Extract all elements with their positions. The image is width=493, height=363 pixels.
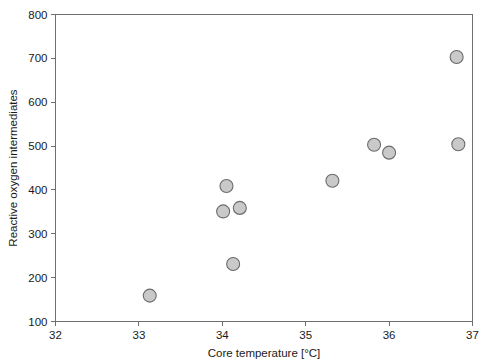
data-point	[326, 174, 339, 187]
x-tick-label: 34	[216, 329, 229, 341]
plot-area: 100200300400500600700800323334353637Core…	[0, 0, 493, 363]
x-tick-label: 32	[49, 329, 62, 341]
x-tick-label: 33	[133, 329, 146, 341]
data-point	[233, 201, 246, 214]
y-tick-label: 800	[28, 9, 47, 21]
y-tick-label: 400	[28, 184, 47, 196]
data-point	[217, 205, 230, 218]
x-tick-label: 35	[299, 329, 312, 341]
y-tick-label: 100	[28, 316, 47, 328]
data-point	[227, 258, 240, 271]
y-axis-title: Reactive oxygen intermediates	[7, 89, 19, 246]
y-tick-label: 600	[28, 96, 47, 108]
y-tick-label: 300	[28, 228, 47, 240]
y-tick-label: 700	[28, 52, 47, 64]
x-tick-label: 36	[383, 329, 396, 341]
data-point	[452, 138, 465, 151]
data-point	[220, 179, 233, 192]
x-tick-label: 37	[466, 329, 479, 341]
data-point	[143, 289, 156, 302]
data-point	[368, 138, 381, 151]
scatter-chart: 100200300400500600700800323334353637Core…	[0, 0, 493, 363]
x-axis-title: Core temperature [°C]	[208, 347, 321, 359]
data-point	[383, 146, 396, 159]
data-point	[450, 51, 463, 64]
y-tick-label: 200	[28, 272, 47, 284]
y-tick-label: 500	[28, 140, 47, 152]
